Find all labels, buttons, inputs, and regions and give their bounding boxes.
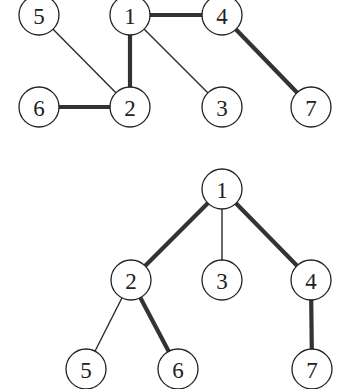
graph-diagram: 1456237 [19, 0, 331, 127]
spanning-tree-node-2: 2 [111, 260, 151, 300]
node-label: 4 [305, 269, 317, 294]
spanning-tree-node-1: 1 [202, 169, 242, 209]
spanning-tree-node-5: 5 [66, 349, 106, 389]
diagram-canvas: 1456237 1234567 [0, 0, 349, 389]
node-label: 6 [33, 96, 45, 121]
graph-node-3: 3 [202, 87, 242, 127]
graph-node-2: 2 [110, 87, 150, 127]
node-label: 7 [306, 358, 318, 383]
graph-node-1: 1 [110, 0, 150, 35]
node-label: 5 [80, 358, 92, 383]
graph-node-5: 5 [19, 0, 59, 35]
node-label: 6 [172, 358, 184, 383]
spanning-tree-node-3: 3 [202, 260, 242, 300]
graph-node-4: 4 [202, 0, 242, 35]
node-label: 1 [216, 178, 228, 203]
node-label: 2 [125, 269, 137, 294]
spanning-tree-node-7: 7 [292, 349, 332, 389]
node-label: 3 [216, 269, 228, 294]
node-label: 7 [305, 96, 317, 121]
spanning-tree-diagram: 1234567 [66, 169, 332, 389]
node-label: 4 [216, 4, 228, 29]
graph-node-7: 7 [291, 87, 331, 127]
node-label: 5 [33, 4, 45, 29]
spanning-tree-node-6: 6 [158, 349, 198, 389]
spanning-tree-node-4: 4 [291, 260, 331, 300]
graph-node-6: 6 [19, 87, 59, 127]
node-label: 1 [124, 4, 136, 29]
graph-edges [39, 15, 311, 107]
tree-nodes: 1234567 [66, 169, 332, 389]
node-label: 2 [124, 96, 136, 121]
node-label: 3 [216, 96, 228, 121]
